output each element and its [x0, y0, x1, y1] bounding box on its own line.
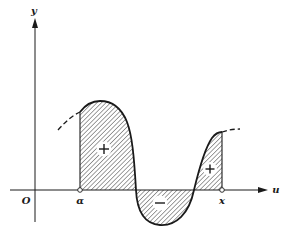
alpha-point [78, 188, 83, 193]
x-label: x [219, 196, 225, 206]
alpha-label: α [76, 196, 84, 206]
plus-sign-badge-left [97, 142, 112, 157]
origin-label: O [22, 196, 31, 206]
y-axis-label: y [31, 6, 37, 16]
curve-dashed-right [222, 129, 240, 132]
minus-sign-badge [153, 196, 168, 211]
integral-diagram [0, 0, 290, 231]
u-axis-arrow-icon [258, 187, 268, 193]
y-axis-arrow-icon [32, 18, 38, 28]
x-point [220, 188, 225, 193]
hatched-region-positive-right [194, 132, 222, 190]
curve-dashed-left [58, 112, 80, 130]
u-axis-label: u [272, 185, 279, 195]
plus-sign-badge-right [203, 162, 217, 176]
